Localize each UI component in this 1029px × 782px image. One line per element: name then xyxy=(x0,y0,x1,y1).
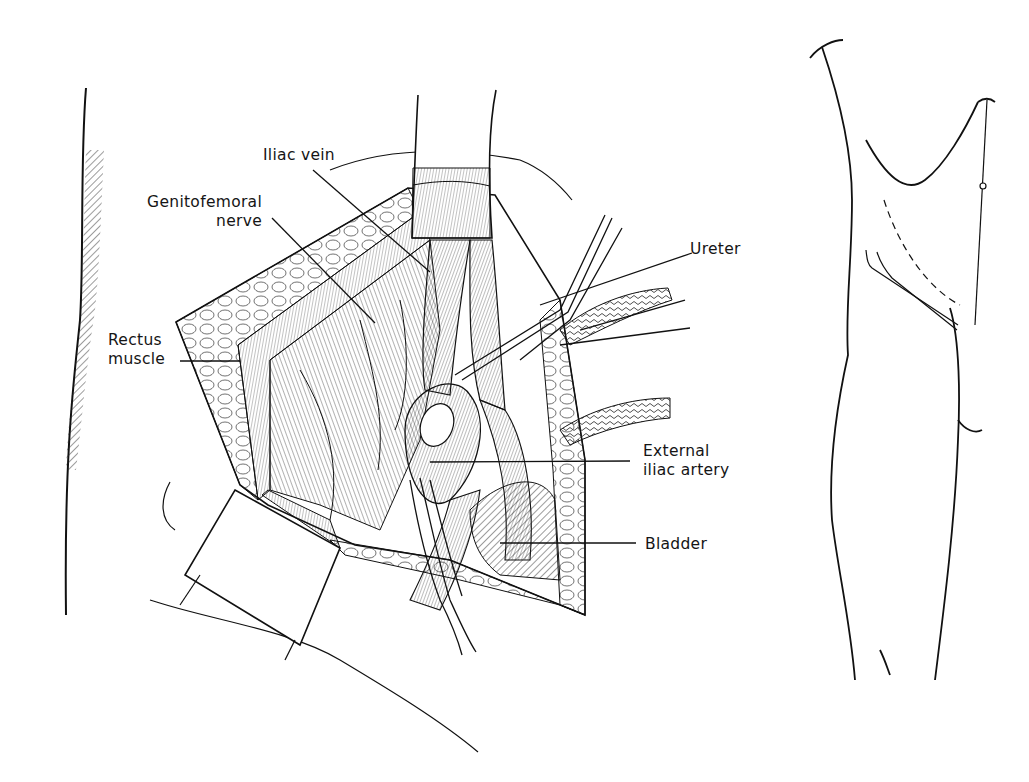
label-external-iliac-line2: iliac artery xyxy=(643,461,730,480)
label-genitofemoral-line2: nerve xyxy=(122,212,262,231)
lower-retractor xyxy=(180,490,340,660)
left-flank-outline xyxy=(66,88,104,615)
label-rectus-line2: muscle xyxy=(108,350,165,369)
label-bladder: Bladder xyxy=(645,535,707,554)
label-external-iliac-line1: External xyxy=(643,442,730,461)
label-external-iliac-artery: External iliac artery xyxy=(643,442,730,480)
label-iliac-vein-text: Iliac vein xyxy=(263,146,335,165)
upper-retractor xyxy=(412,90,496,238)
label-iliac-vein: Iliac vein xyxy=(263,146,335,165)
label-genitofemoral-nerve: Genitofemoral nerve xyxy=(122,193,262,231)
anatomy-figure: Iliac vein Genitofemoral nerve Rectus mu… xyxy=(0,0,1029,782)
retracted-tissue xyxy=(560,288,672,445)
label-ureter: Ureter xyxy=(690,240,741,259)
label-ureter-text: Ureter xyxy=(690,240,741,259)
inset-scale-line xyxy=(975,100,987,325)
inset-body-outline xyxy=(810,40,995,680)
inset-incision-lines xyxy=(866,200,960,330)
label-rectus-muscle: Rectus muscle xyxy=(108,331,165,369)
illustration-canvas xyxy=(0,0,1029,782)
label-rectus-line1: Rectus xyxy=(108,331,165,350)
label-genitofemoral-line1: Genitofemoral xyxy=(122,193,262,212)
label-bladder-text: Bladder xyxy=(645,535,707,554)
